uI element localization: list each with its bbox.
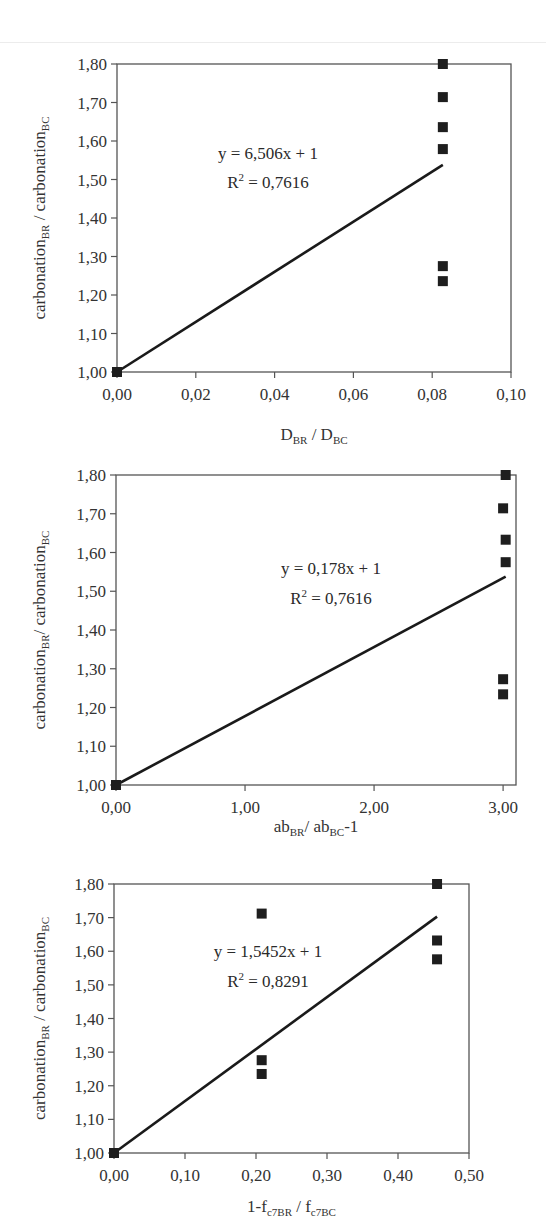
data-point-square-marker [109,1148,119,1158]
data-point-square-marker [257,909,267,919]
r-squared-label: R2 = 0,8291 [227,970,309,991]
data-point-square-marker [257,1055,267,1065]
y-axis-label: carbonationBR / carbonationBC [30,917,51,1120]
data-point-square-marker [257,1069,267,1079]
x-tick-label: 0,00 [99,1166,129,1185]
y-tick-label: 1,50 [74,976,104,995]
x-tick-label: 0,20 [241,1166,271,1185]
x-tick-label: 0,30 [312,1166,342,1185]
x-tick-label: 0,40 [383,1166,413,1185]
x-tick-label: 0,50 [454,1166,484,1185]
y-tick-label: 1,20 [74,1077,104,1096]
y-tick-label: 1,00 [74,1144,104,1163]
x-tick-label: 0,10 [170,1166,200,1185]
trendline-equation: y = 1,5452x + 1 [214,942,322,961]
chart-fc7-ratio: 1,001,101,201,301,401,501,601,701,800,00… [0,0,546,1224]
y-tick-label: 1,60 [74,942,104,961]
data-point-square-marker [432,879,442,889]
data-point-square-marker [432,954,442,964]
y-tick-label: 1,80 [74,875,104,894]
y-tick-label: 1,30 [74,1043,104,1062]
y-tick-label: 1,40 [74,1010,104,1029]
x-axis-label: 1-fc7BR / fc7BC [247,1197,336,1218]
data-point-square-marker [432,935,442,945]
y-tick-label: 1,10 [74,1110,104,1129]
y-tick-label: 1,70 [74,909,104,928]
